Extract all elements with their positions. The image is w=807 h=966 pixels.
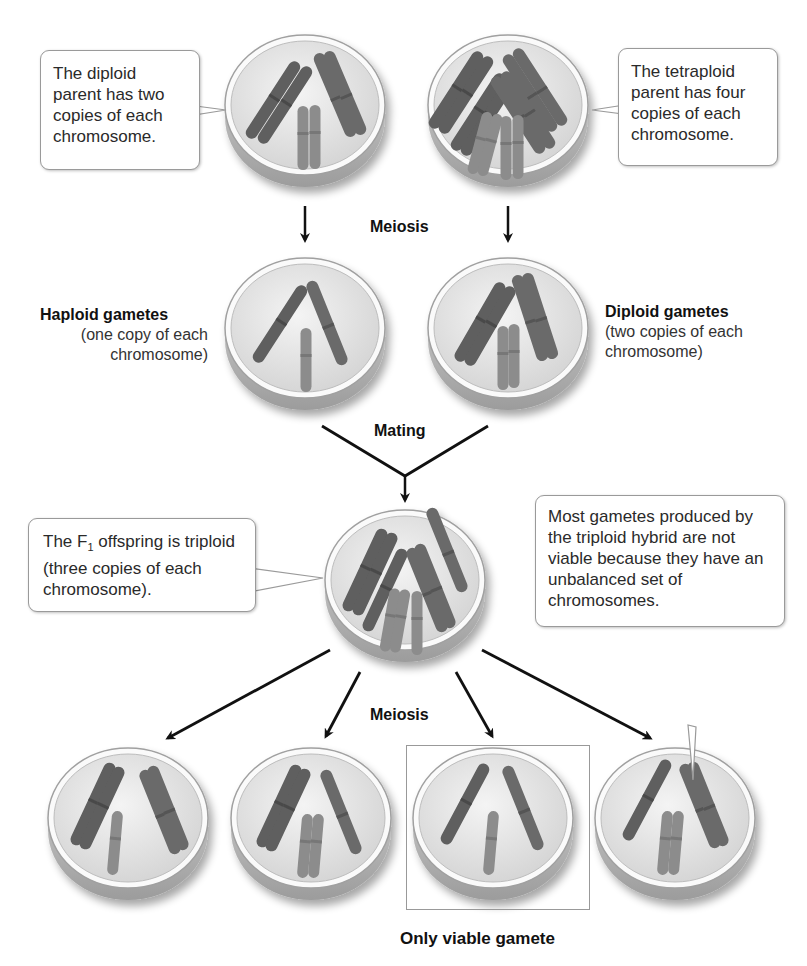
diploid-desc: (two copies of each chromosome) <box>605 322 785 362</box>
label-haploid-gametes: Haploid gametes (one copy of each chromo… <box>28 305 208 365</box>
haploid-title: Haploid gametes <box>28 305 208 325</box>
label-meiosis-top: Meiosis <box>370 218 429 236</box>
callout-tetraploid-parent: The tetraploid parent has four copies of… <box>618 48 778 166</box>
callout-triploid-gametes: Most gametes produced by the triploid hy… <box>535 495 785 627</box>
cell-gamete-2 <box>231 748 391 900</box>
cell-haploid-gamete <box>225 258 385 410</box>
viable-gamete-highlight-box <box>406 745 590 910</box>
callout-text: Most gametes produced by the triploid hy… <box>548 507 764 610</box>
callout-text: The diploid parent has two copies of eac… <box>53 64 165 146</box>
callout-text-prefix: The F <box>43 532 87 551</box>
label-only-viable-gamete: Only viable gamete <box>400 929 555 949</box>
cell-tetraploid-parent <box>426 35 588 187</box>
diploid-title: Diploid gametes <box>605 302 785 322</box>
cell-diploid-gamete <box>428 258 588 410</box>
cell-gamete-1 <box>48 748 208 900</box>
callout-text: The tetraploid parent has four copies of… <box>631 62 745 144</box>
label-mating: Mating <box>374 422 426 440</box>
cell-gamete-4 <box>595 748 755 900</box>
cell-diploid-parent <box>225 35 385 187</box>
label-meiosis-bottom: Meiosis <box>370 706 429 724</box>
callout-f1-offspring: The F1 offspring is triploid (three copi… <box>28 518 256 612</box>
haploid-desc: (one copy of each chromosome) <box>28 325 208 365</box>
cell-triploid-f1 <box>325 506 485 662</box>
callout-diploid-parent: The diploid parent has two copies of eac… <box>40 50 200 170</box>
label-diploid-gametes: Diploid gametes (two copies of each chro… <box>605 302 785 362</box>
